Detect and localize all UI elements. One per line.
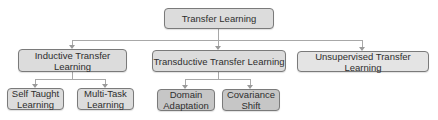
node-inductive-transfer-learning: Inductive Transfer Learning xyxy=(18,49,127,72)
node-multi-task-learning: Multi-Task Learning xyxy=(77,88,134,110)
node-label-line2: Adaptation xyxy=(163,100,208,111)
node-label-line1: Self Taught xyxy=(12,88,59,99)
node-covariance-shift: Covariance Shift xyxy=(222,89,280,111)
node-label-line2: Shift xyxy=(241,100,260,111)
node-label-line1: Covariance xyxy=(227,89,275,100)
connector-inductive-bus xyxy=(35,79,106,80)
node-label-line1: Domain xyxy=(170,89,203,100)
connector-transductive-stem xyxy=(218,71,219,79)
connector-transductive-bus xyxy=(185,79,251,80)
node-label: Transfer Learning xyxy=(182,13,257,24)
connector-root-stem xyxy=(218,28,219,40)
connector-inductive-stem xyxy=(72,71,73,79)
node-unsupervised-transfer-learning: Unsupervised Transfer Learning xyxy=(297,51,429,72)
node-label-line2: Learning xyxy=(87,99,124,110)
connector-to-unsupervised xyxy=(362,40,363,47)
node-label-line2: Learning xyxy=(17,99,54,110)
node-domain-adaptation: Domain Adaptation xyxy=(157,89,215,111)
node-self-taught-learning: Self Taught Learning xyxy=(7,88,64,110)
node-label: Transductive Transfer Learning xyxy=(153,56,284,67)
node-label: Inductive Transfer Learning xyxy=(19,50,126,72)
node-label-line1: Multi-Task xyxy=(84,88,127,99)
node-transductive-transfer-learning: Transductive Transfer Learning xyxy=(152,50,286,72)
node-label: Unsupervised Transfer Learning xyxy=(298,51,428,73)
node-transfer-learning: Transfer Learning xyxy=(164,8,274,29)
